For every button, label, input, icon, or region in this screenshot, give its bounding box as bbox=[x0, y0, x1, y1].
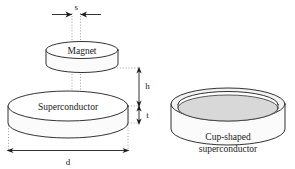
dimension-s-label: s bbox=[74, 2, 78, 12]
cup-label-line2: superconductor bbox=[199, 144, 258, 154]
figure-diagram: Magnet Superconductor s bbox=[0, 0, 295, 169]
dimension-t: t bbox=[136, 105, 149, 125]
dimension-d: d bbox=[7, 148, 130, 167]
magnet-label: Magnet bbox=[67, 46, 96, 56]
dimension-h-label: h bbox=[145, 81, 150, 91]
cup-label-line1: Cup-shaped bbox=[205, 132, 251, 142]
cup-shaped-superconductor: Cup-shaped superconductor bbox=[171, 88, 285, 154]
dimension-s: s bbox=[52, 2, 101, 18]
dimension-d-label: d bbox=[66, 157, 71, 167]
superconductor-label: Superconductor bbox=[38, 102, 99, 112]
magnet-cylinder: Magnet bbox=[46, 42, 118, 73]
diagram-canvas: Magnet Superconductor s bbox=[0, 0, 295, 169]
dimension-h: h bbox=[136, 67, 150, 108]
superconductor-cylinder: Superconductor bbox=[8, 91, 128, 138]
dimension-t-label: t bbox=[146, 110, 149, 120]
